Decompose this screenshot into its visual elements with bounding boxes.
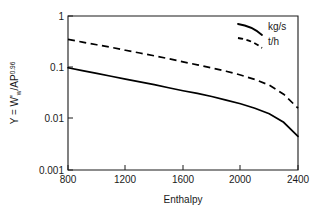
x-tick-label: 1200 [114,174,137,185]
enthalpy-log-chart: 1 0.1 0.01 0.001 800 1200 1600 2000 2400… [0,0,328,216]
y-axis-title-mid: /AP [9,74,20,90]
legend-label-kg-s: kg/s [268,21,286,32]
x-tick-label: 2000 [229,174,252,185]
x-tick-label: 800 [60,174,77,185]
y-axis-title-sup: 0.96 [9,61,16,74]
x-axis-title: Enthalpy [164,194,203,205]
chart-background [0,0,328,216]
y-axis-title-prefix: Y = W' [9,95,20,124]
x-tick-label: 1600 [172,174,195,185]
x-tick-label: 2400 [287,174,310,185]
legend-label-t-h: t/h [268,36,279,47]
y-tick-label: 1 [58,11,64,22]
y-tick-label: 0.01 [45,113,65,124]
y-tick-label: 0.1 [50,62,64,73]
